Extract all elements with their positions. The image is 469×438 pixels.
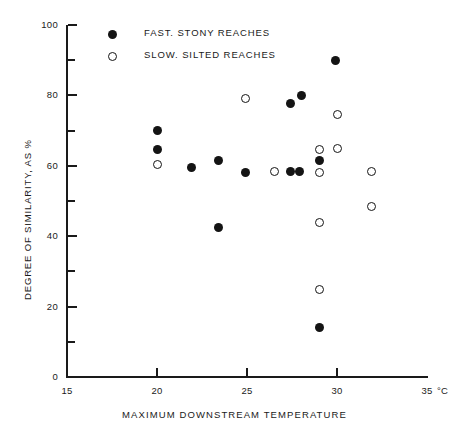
data-point-filled: [241, 168, 250, 177]
y-tick-label: 20: [18, 301, 58, 312]
y-tick-major: [68, 235, 77, 237]
data-point-open: [367, 167, 376, 176]
y-tick-minor: [68, 341, 75, 343]
data-point-open: [315, 168, 324, 177]
data-point-filled: [315, 323, 324, 332]
data-point-filled: [187, 163, 196, 172]
data-point-filled: [315, 156, 324, 165]
data-point-filled: [297, 91, 306, 100]
y-tick-minor: [68, 200, 75, 202]
legend-label: FAST. STONY REACHES: [144, 27, 270, 38]
data-point-open: [270, 167, 279, 176]
scatter-plot-figure: 020406080100 1520253035 DEGREE OF SIMILA…: [0, 0, 469, 438]
y-axis-title: DEGREE OF SIMILARITY, AS %: [22, 139, 33, 300]
x-tick-label: 25: [227, 385, 267, 396]
y-tick-major: [68, 165, 77, 167]
data-point-open: [315, 218, 324, 227]
data-point-open: [367, 202, 376, 211]
data-point-filled: [331, 56, 340, 65]
data-point-open: [153, 160, 162, 169]
x-tick-label: 15: [47, 385, 87, 396]
y-tick-label: 100: [18, 19, 58, 30]
data-point-open: [315, 145, 324, 154]
x-tick-major: [156, 368, 158, 377]
open-circle-icon: [108, 52, 117, 61]
data-point-filled: [214, 156, 223, 165]
data-point-open: [241, 94, 250, 103]
data-point-open: [333, 144, 342, 153]
y-tick-label: 80: [18, 89, 58, 100]
data-point-filled: [286, 167, 295, 176]
x-tick-label: 20: [137, 385, 177, 396]
x-tick-major: [246, 368, 248, 377]
y-tick-major: [68, 376, 77, 378]
legend-label: SLOW. SILTED REACHES: [144, 49, 276, 60]
y-tick-minor: [68, 59, 75, 61]
x-tick-label: 30: [317, 385, 357, 396]
data-point-open: [315, 285, 324, 294]
data-point-open: [333, 110, 342, 119]
y-tick-major: [68, 306, 77, 308]
data-point-filled: [153, 145, 162, 154]
y-tick-minor: [68, 130, 75, 132]
filled-circle-icon: [108, 30, 117, 39]
x-axis-unit-label: °C: [437, 385, 448, 396]
x-axis-title: MAXIMUM DOWNSTREAM TEMPERATURE: [0, 409, 469, 420]
data-point-filled: [214, 223, 223, 232]
y-tick-major: [68, 24, 77, 26]
y-tick-major: [68, 94, 77, 96]
y-tick-label: 0: [18, 371, 58, 382]
data-point-filled: [153, 126, 162, 135]
data-point-filled: [286, 99, 295, 108]
y-tick-minor: [68, 270, 75, 272]
data-point-filled: [295, 167, 304, 176]
x-tick-major: [336, 368, 338, 377]
